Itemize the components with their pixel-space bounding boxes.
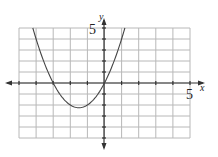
parabola-graph: 5 y 5 x xyxy=(0,0,218,157)
y-axis-max-label: 5 xyxy=(89,22,96,37)
parabola-curve xyxy=(33,28,125,108)
x-axis-label: x xyxy=(199,82,205,93)
x-axis-left-arrow-icon xyxy=(5,81,12,86)
x-axis-max-label: 5 xyxy=(186,87,193,102)
y-axis-down-arrow-icon xyxy=(102,143,107,150)
y-axis-label: y xyxy=(98,11,104,22)
